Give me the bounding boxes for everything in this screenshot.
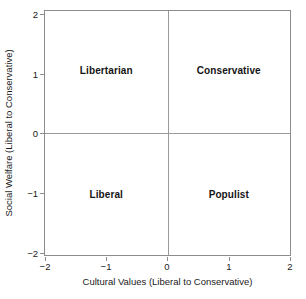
quadrant-label-libertarian: Libertarian	[80, 64, 133, 75]
y-axis-label-container: Social Welfare (Liberal to Conservative)	[0, 10, 16, 256]
y-tick-label-neg1: −1	[24, 188, 38, 199]
political-typology-quadrant-chart: Social Welfare (Liberal to Conservative)…	[0, 0, 306, 299]
x-tick-label-0: 0	[164, 261, 169, 272]
x-tick-label-1: 1	[226, 261, 231, 272]
y-tick-label-neg2: −2	[24, 248, 38, 259]
quadrant-label-populist: Populist	[209, 189, 249, 200]
plot-area: Libertarian Conservative Liberal Populis…	[44, 10, 291, 256]
x-tick-label-neg1: −1	[101, 261, 112, 272]
horizontal-zero-reference-line	[45, 133, 290, 134]
y-tick-label-0: 0	[24, 128, 38, 139]
quadrant-label-conservative: Conservative	[197, 64, 261, 75]
x-tick-label-neg2: −2	[40, 261, 51, 272]
y-axis-label: Social Welfare (Liberal to Conservative)	[3, 49, 14, 216]
quadrant-label-liberal: Liberal	[90, 189, 124, 200]
x-axis-label: Cultural Values (Liberal to Conservative…	[44, 276, 291, 287]
y-tick-label-2: 2	[24, 9, 38, 20]
x-tick-label-2: 2	[287, 261, 292, 272]
y-tick-label-1: 1	[24, 69, 38, 80]
